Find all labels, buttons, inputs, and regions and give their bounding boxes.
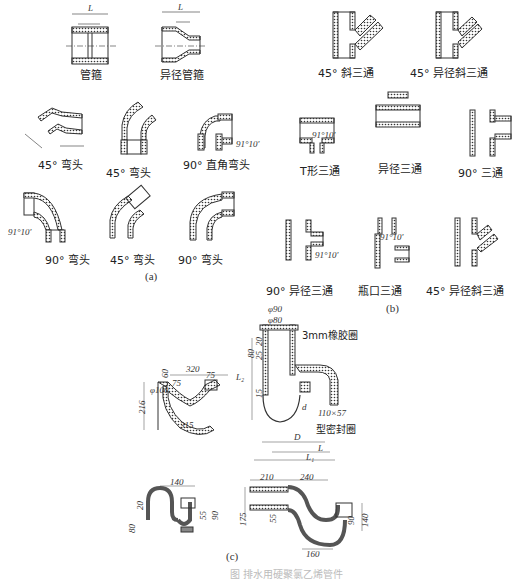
label-elbow-45-b: 45° 弯头 [106, 164, 151, 180]
elbow-45-c-drawing [110, 185, 150, 238]
label-tee-45-reducing: 45° 异径斜三通 [410, 64, 488, 80]
label-seal-size: 110×57 [318, 408, 346, 418]
label-tee-90: 90° 三通 [458, 164, 503, 180]
label-elbow-90-right-angle: 90° 直角弯头 [183, 156, 250, 172]
dim-phi80: φ80 [268, 315, 282, 325]
label-tee-90-reducing: 90° 异径三通 [266, 282, 333, 298]
dim-L1: L₁ [306, 452, 314, 462]
tee-45-drawing [333, 12, 383, 58]
dim-p-small-20: 20 [135, 501, 145, 510]
elbow-90-b-drawing [190, 192, 234, 240]
dim-d: d [302, 402, 307, 412]
elbow-90-right-angle-drawing [198, 114, 232, 150]
tee-45-reducing-drawing [436, 12, 482, 58]
dim-p-large-55: 55 [268, 514, 278, 523]
panel-label-c: (c) [226, 550, 238, 562]
dim-p-small-90: 90 [210, 511, 220, 520]
dim-L-reducer: L [178, 2, 183, 12]
label-rubber-ring: 3mm橡胶圈 [302, 327, 358, 342]
reducer-coupling-drawing [155, 12, 206, 62]
dim-L-coupling: L [88, 3, 93, 13]
p-trap-large-drawing [250, 487, 352, 545]
label-elbow-45-a: 45° 弯头 [38, 156, 83, 172]
coupling-drawing [66, 14, 116, 64]
label-elbow-90-a: 90° 弯头 [45, 251, 90, 267]
dim-p-small-80: 80 [127, 524, 137, 533]
dim-floor-20: 20 [254, 337, 264, 346]
tee-bottleneck-drawing [375, 218, 409, 268]
label-tee-45-reducing-b: 45° 异径斜三通 [426, 282, 504, 298]
dim-phi90: φ90 [268, 304, 282, 314]
dim-p-small-140: 140 [170, 477, 184, 487]
label-seal-type: 型密封圈 [316, 421, 356, 436]
label-tee-bottleneck: 瓶口三通 [358, 282, 402, 298]
label-tee-T: T形三通 [300, 162, 340, 178]
tee-reducing-drawing [376, 92, 420, 127]
dim-angle-b1: 91°10′ [312, 130, 336, 140]
dim-p-large-210: 210 [260, 472, 274, 482]
dim-angle-a2: 91°10′ [8, 227, 32, 237]
elbow-45-a-drawing [25, 108, 84, 148]
dim-p-large-240: 240 [300, 472, 314, 482]
dim-angle-b2: 91°10′ [315, 250, 339, 260]
tee-90-drawing [470, 110, 511, 156]
dim-angle-a1: 91°10′ [236, 139, 260, 149]
label-tee-reducing: 异径三通 [378, 160, 422, 176]
p-trap-small-drawing [148, 488, 195, 532]
dim-p-large-160: 160 [306, 549, 320, 559]
dim-s-trap-dia: φ100 [150, 385, 168, 395]
dim-p-large-90: 90 [346, 516, 356, 525]
tee-45-reducing-b-drawing [455, 218, 498, 266]
panel-label-a: (a) [145, 270, 157, 282]
label-reducer-coupling: 异径管箍 [160, 66, 204, 82]
dim-s-trap-75b: 75 [206, 370, 215, 380]
label-elbow-45-c: 45° 弯头 [110, 251, 155, 267]
label-coupling: 管箍 [80, 66, 102, 82]
label-tee-45: 45° 斜三通 [318, 64, 374, 80]
dim-p-large-140: 140 [360, 514, 370, 528]
dim-s-trap-height: 216 [137, 401, 147, 415]
dim-p-small-55: 55 [198, 511, 208, 520]
elbow-45-b-drawing [121, 102, 156, 154]
dim-floor-25: 25 [254, 351, 264, 360]
dim-s-trap-width: 320 [186, 364, 200, 374]
dim-s-trap-60: 60 [160, 369, 170, 378]
dim-floor-15: 15 [254, 389, 264, 398]
dim-L2: L₂ [236, 372, 244, 382]
dim-s-trap-75a: 75 [172, 378, 181, 388]
dim-D: D [294, 432, 301, 442]
figure-caption: 图 排水用硬聚氯乙烯管件 [230, 566, 343, 581]
dim-L: L [318, 443, 323, 453]
panel-label-b: (b) [386, 302, 399, 314]
dim-p-large-175: 175 [238, 513, 248, 527]
dim-angle-b3: 91°10′ [380, 232, 404, 242]
dim-s-trap-diag: 315 [180, 420, 194, 430]
label-elbow-90-b: 90° 弯头 [178, 251, 223, 267]
